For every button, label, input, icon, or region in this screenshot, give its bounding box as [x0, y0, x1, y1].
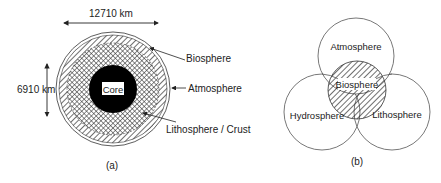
biosphere-label: Biosphere — [186, 53, 231, 64]
lithosphere-label: Lithosphere / Crust — [166, 124, 251, 135]
earth-spheres-figure: Core 12710 km 6910 km Biosphere Atmosphe… — [0, 0, 441, 183]
lithosphere-circle-label: Lithosphere — [372, 109, 422, 120]
atmosphere-label: Atmosphere — [188, 83, 242, 94]
caption-b: (b) — [351, 156, 363, 167]
atmosphere-circle-label: Atmosphere — [330, 41, 381, 52]
height-label: 6910 km — [17, 84, 55, 95]
core-label: Core — [103, 84, 124, 95]
biosphere-circle-label: Biosphere — [336, 79, 379, 90]
width-label: 12710 km — [89, 8, 133, 19]
panel-a: Core 12710 km 6910 km Biosphere Atmosphe… — [17, 8, 251, 171]
hydrosphere-circle-label: Hydrosphere — [290, 110, 344, 121]
caption-a: (a) — [106, 160, 118, 171]
